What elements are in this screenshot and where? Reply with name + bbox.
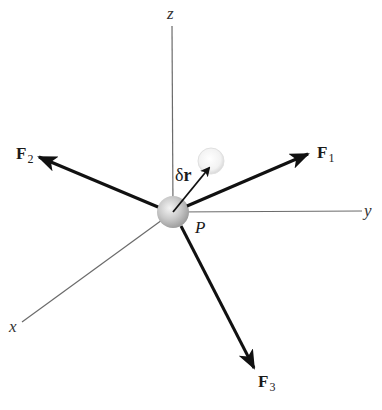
force-f1-label: F1 <box>317 144 334 164</box>
z-axis <box>172 26 173 212</box>
diagram-canvas <box>0 0 382 410</box>
y-axis <box>173 211 362 212</box>
force-f2-arrow <box>39 157 158 207</box>
force-f3-name: F <box>258 372 268 391</box>
force-f2-label: F2 <box>16 145 33 165</box>
force-f2-name: F <box>16 144 26 163</box>
x-axis <box>22 212 173 322</box>
y-axis-label: y <box>364 202 372 219</box>
force-f3-label: F3 <box>258 373 275 393</box>
force-f2-index: 2 <box>27 152 33 166</box>
x-axis-label: x <box>9 318 17 335</box>
virtual-displacement-label: δr <box>175 166 191 184</box>
force-f3-arrow <box>181 226 254 368</box>
r-vector-symbol: r <box>183 165 191 185</box>
force-f3-index: 3 <box>269 380 275 394</box>
displaced-particle <box>198 148 224 174</box>
z-axis-label: z <box>167 5 174 22</box>
point-p-label: P <box>195 219 205 236</box>
force-f1-index: 1 <box>328 151 334 165</box>
virtual-work-diagram: z y x P δr F1 F2 F3 <box>0 0 382 410</box>
force-f1-name: F <box>317 143 327 162</box>
